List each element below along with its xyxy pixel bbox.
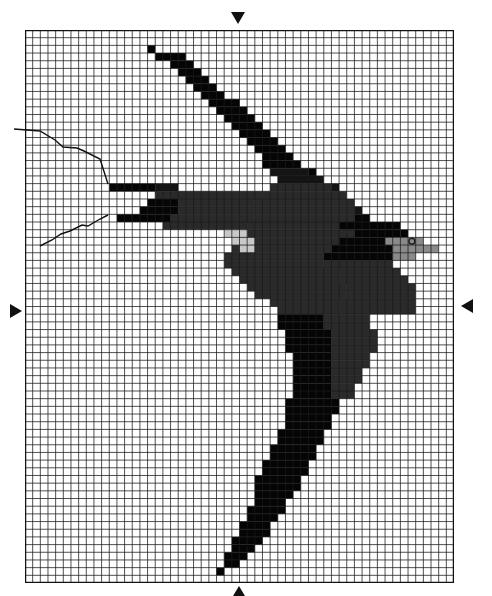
- stitch-block: [293, 383, 331, 391]
- stitch-block: [293, 391, 331, 399]
- stitch-block: [354, 207, 362, 215]
- stitch-block: [270, 168, 308, 176]
- stitch-block: [331, 184, 339, 192]
- stitch-block: [331, 353, 369, 361]
- stitch-grid: [25, 30, 454, 583]
- stitch-block: [255, 491, 293, 499]
- center-marker-bottom-icon: [233, 586, 245, 596]
- stitch-block: [293, 360, 331, 368]
- stitch-block: [400, 230, 408, 238]
- stitch-block: [262, 161, 300, 169]
- stitch-block: [331, 360, 369, 368]
- stitch-block: [224, 552, 247, 560]
- stitch-block: [186, 76, 209, 84]
- stitch-block: [232, 545, 255, 553]
- stitch-block: [178, 68, 201, 76]
- stitch-block: [262, 191, 346, 199]
- cross-stitch-chart: [25, 30, 454, 583]
- stitch-block: [347, 283, 416, 291]
- stitch-block: [293, 353, 331, 361]
- stitch-block: [339, 276, 408, 284]
- stitch-block: [217, 568, 225, 576]
- stitch-block: [331, 391, 354, 399]
- stitch-block: [331, 383, 354, 391]
- center-marker-left-icon: [10, 304, 22, 318]
- stitch-block: [293, 368, 331, 376]
- stitch-block: [232, 237, 255, 245]
- stitch-block: [393, 253, 416, 261]
- stitch-block: [293, 376, 331, 384]
- stitch-block: [324, 253, 393, 261]
- stitch-block: [247, 506, 285, 514]
- stitch-block: [194, 84, 217, 92]
- stitch-block: [347, 291, 416, 299]
- center-marker-top-icon: [231, 12, 245, 24]
- stitch-block: [148, 45, 156, 53]
- stitch-block: [324, 260, 393, 268]
- stitch-block: [308, 168, 316, 176]
- stitch-block: [201, 91, 224, 99]
- center-marker-right-icon: [461, 299, 473, 313]
- stitch-block: [224, 230, 247, 238]
- stitch-block: [385, 237, 423, 245]
- stitch-block: [163, 222, 247, 230]
- stitch-block: [155, 184, 178, 192]
- stitch-block: [171, 214, 255, 222]
- stitch-block: [171, 61, 194, 69]
- stitch-block: [270, 299, 339, 307]
- stitch-block: [140, 207, 178, 215]
